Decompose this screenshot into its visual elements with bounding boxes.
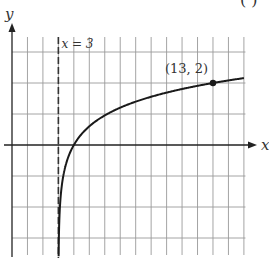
- chart: x y x = 3 (13, 2) ( ): [0, 0, 269, 261]
- point-label: (13, 2): [165, 61, 208, 76]
- y-axis-arrow-icon: [9, 23, 16, 32]
- panel-label: ( ): [240, 0, 258, 9]
- x-axis-label: x: [261, 136, 269, 154]
- asymptote-label: x = 3: [61, 37, 93, 51]
- x-axis-arrow-icon: [248, 142, 257, 149]
- highlighted-point: [210, 80, 216, 86]
- grid: [12, 37, 245, 255]
- y-axis-label: y: [4, 5, 14, 23]
- axes: [4, 23, 257, 257]
